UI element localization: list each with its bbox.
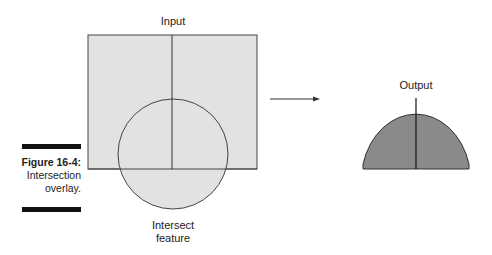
intersect-label-line1: Intersect bbox=[140, 219, 206, 231]
intersect-label-line2: feature bbox=[140, 232, 206, 244]
figure-number: Figure 16-4: bbox=[20, 156, 81, 169]
input-label: Input bbox=[140, 15, 206, 27]
caption-top-rule bbox=[22, 144, 81, 149]
caption-bottom-rule bbox=[22, 207, 81, 212]
intersect-feature-circle bbox=[118, 99, 228, 209]
caption-line2: overlay. bbox=[20, 182, 81, 195]
caption-line1: Intersection bbox=[20, 169, 81, 182]
figure-caption: Figure 16-4: Intersection overlay. bbox=[20, 156, 81, 195]
output-label: Output bbox=[383, 79, 449, 91]
overlay-diagram bbox=[0, 0, 492, 255]
arrow-head-icon bbox=[313, 97, 320, 102]
